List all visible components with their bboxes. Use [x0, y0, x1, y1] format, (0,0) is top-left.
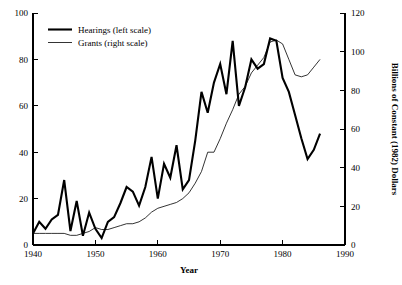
- right-tick-label-40: 40: [351, 163, 361, 173]
- right-tick-label-120: 120: [351, 8, 365, 18]
- x-tick-label-1960: 1960: [149, 249, 168, 259]
- right-tick-label-20: 20: [351, 202, 361, 212]
- right-tick-label-100: 100: [351, 47, 365, 57]
- left-axis-ticks: [33, 13, 38, 245]
- right-axis-ticks: [340, 13, 345, 245]
- left-tick-label-40: 40: [19, 148, 29, 158]
- x-tick-label-1990: 1990: [336, 249, 355, 259]
- right-tick-label-80: 80: [351, 86, 361, 96]
- x-axis-title: Year: [180, 265, 198, 275]
- chart-figure: 0 20 40 60 80 100 0 20 40 60 80 100 120: [0, 0, 402, 285]
- left-tick-label-60: 60: [19, 101, 29, 111]
- x-tick-label-1950: 1950: [86, 249, 105, 259]
- right-axis-tick-labels: 0 20 40 60 80 100 120: [351, 8, 365, 250]
- x-tick-label-1980: 1980: [274, 249, 293, 259]
- right-tick-label-60: 60: [351, 124, 361, 134]
- x-tick-label-1940: 1940: [24, 249, 43, 259]
- left-tick-label-20: 20: [19, 194, 29, 204]
- y-right-axis-title: Billions of Constant (1982) Dollars: [390, 63, 400, 196]
- left-tick-label-100: 100: [15, 8, 29, 18]
- chart-legend: Hearings (left scale) Grants (right scal…: [48, 25, 151, 48]
- series-line-hearings: [33, 39, 320, 239]
- chart-svg: 0 20 40 60 80 100 0 20 40 60 80 100 120: [0, 0, 402, 285]
- left-tick-label-80: 80: [19, 55, 29, 65]
- x-tick-label-1970: 1970: [211, 249, 230, 259]
- legend-label-grants: Grants (right scale): [78, 38, 147, 48]
- x-axis-ticks: [33, 240, 345, 245]
- x-axis-tick-labels: 1940 1950 1960 1970 1980 1990: [24, 249, 355, 259]
- left-axis-tick-labels: 0 20 40 60 80 100: [15, 8, 29, 250]
- legend-label-hearings: Hearings (left scale): [78, 25, 151, 35]
